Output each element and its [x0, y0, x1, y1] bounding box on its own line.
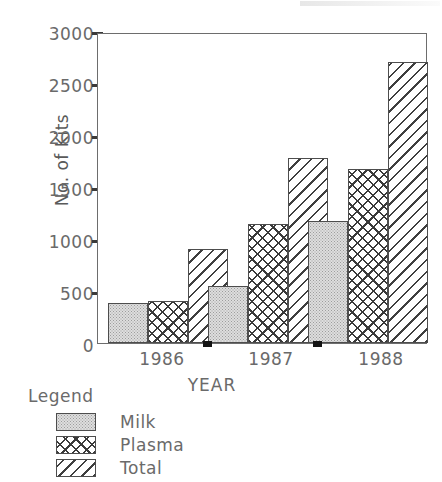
legend-item-milk: Milk	[28, 410, 228, 433]
y-tick-label-1500: 1500	[34, 180, 94, 200]
chart-page: No. of Kits 3000 2500 2000 1500 1000 500…	[0, 0, 442, 482]
y-tick-label-1000: 1000	[34, 232, 94, 252]
x-tick-label-1986: 1986	[117, 349, 207, 369]
scan-artifact	[300, 1, 440, 6]
legend-swatch-total	[56, 459, 96, 477]
legend-label-milk: Milk	[120, 412, 156, 432]
x-tick-label-1987: 1987	[226, 349, 316, 369]
bar-1988-total	[388, 62, 428, 343]
legend-label-plasma: Plasma	[120, 435, 184, 455]
legend-item-plasma: Plasma	[28, 433, 228, 456]
bar-1987-milk	[208, 286, 248, 343]
legend-swatch-milk	[56, 413, 96, 431]
x-tick-mark-2	[313, 341, 322, 347]
y-tick-label-3000: 3000	[34, 24, 94, 44]
bar-1988-milk	[308, 221, 348, 343]
legend: Legend Milk Plasma Total	[28, 386, 228, 479]
y-tick-label-0: 0	[34, 336, 94, 356]
x-tick-mark-1	[203, 341, 212, 347]
x-tick-label-1988: 1988	[336, 349, 426, 369]
bar-1988-plasma	[348, 169, 388, 343]
legend-swatch-plasma	[56, 436, 96, 454]
y-tick-label-500: 500	[34, 284, 94, 304]
y-tick-label-2000: 2000	[34, 128, 94, 148]
y-tick-label-2500: 2500	[34, 76, 94, 96]
bar-1986-milk	[108, 303, 148, 343]
bar-1986-plasma	[148, 301, 188, 343]
legend-item-total: Total	[28, 456, 228, 479]
bar-1987-plasma	[248, 224, 288, 343]
y-axis-title: No. of Kits	[52, 90, 72, 230]
legend-label-total: Total	[120, 458, 162, 478]
legend-title: Legend	[28, 386, 228, 406]
plot-area	[97, 33, 427, 344]
